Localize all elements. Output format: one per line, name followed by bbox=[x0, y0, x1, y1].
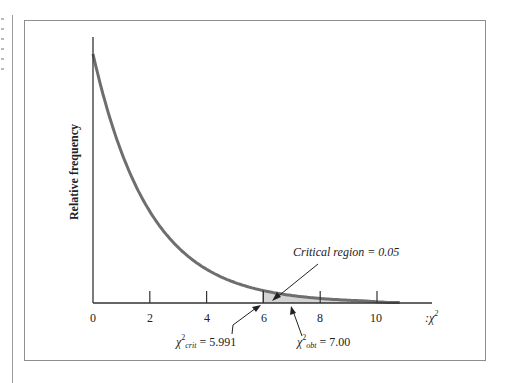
tick-label-6: 6 bbox=[261, 311, 267, 325]
tick-label-4: 4 bbox=[204, 311, 210, 325]
arrowhead-icon bbox=[290, 306, 296, 315]
crit-arrow bbox=[232, 308, 256, 334]
tick-label-0: 0 bbox=[90, 311, 96, 325]
distribution-curve bbox=[93, 54, 400, 303]
tick-label-10: 10 bbox=[370, 311, 382, 325]
critical-region-label: Critical region = 0.05 bbox=[293, 245, 399, 259]
chi-square-chart: 0 2 4 6 8 10 :χ2 Relative frequency Crit… bbox=[0, 0, 508, 383]
x-axis-label: :χ2 bbox=[425, 309, 438, 325]
tick-label-2: 2 bbox=[147, 311, 153, 325]
obt-arrow bbox=[293, 311, 302, 336]
arrowhead-icon bbox=[252, 305, 261, 312]
chi-square-critical-label: χ2crit = 5.991 bbox=[175, 333, 236, 350]
chi-square-obtained-label: χ2obt = 7.00 bbox=[296, 333, 350, 350]
y-axis-label: Relative frequency bbox=[67, 124, 81, 220]
critical-region-arrow bbox=[276, 264, 318, 298]
tick-label-8: 8 bbox=[317, 311, 323, 325]
